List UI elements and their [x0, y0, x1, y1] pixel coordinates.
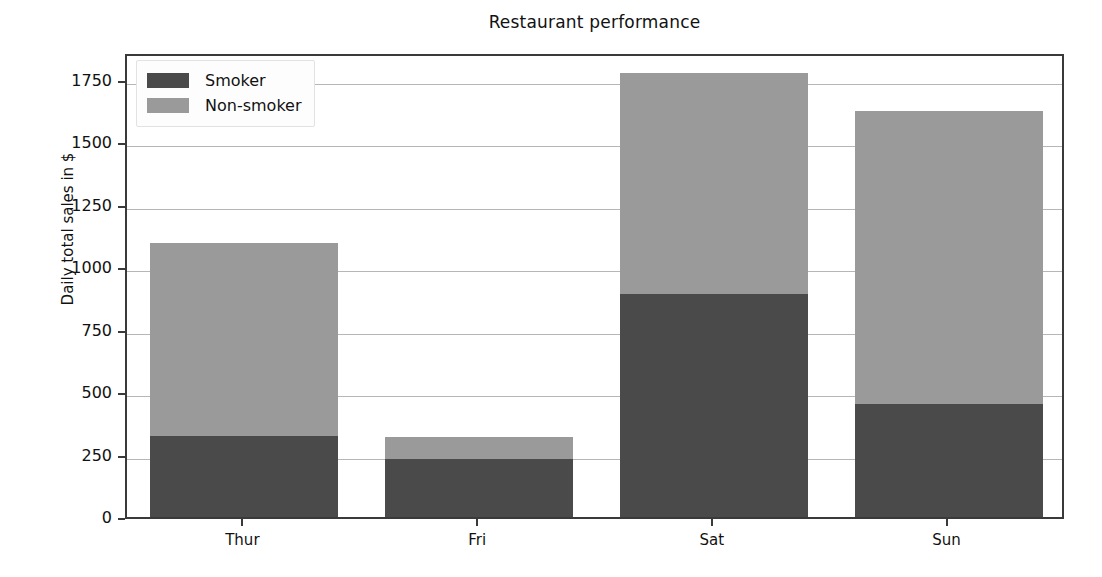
legend-label: Non-smoker: [205, 96, 302, 115]
bar-segment-smoker[interactable]: [385, 459, 573, 517]
y-tick-label: 500: [2, 383, 112, 402]
y-tick-mark: [118, 206, 125, 208]
x-tick-mark: [476, 519, 478, 526]
bar-segment-smoker[interactable]: [855, 404, 1043, 517]
bar-segment-non-smoker[interactable]: [150, 243, 338, 436]
y-tick-mark: [118, 143, 125, 145]
y-tick-label: 1000: [2, 258, 112, 277]
x-tick-label-sun: Sun: [877, 531, 1017, 549]
bar-stack-fri[interactable]: [385, 54, 573, 517]
bar-segment-non-smoker[interactable]: [620, 73, 808, 294]
bar-stack-sat[interactable]: [620, 54, 808, 517]
x-tick-label-sat: Sat: [642, 531, 782, 549]
bar-segment-non-smoker[interactable]: [385, 437, 573, 459]
page-title: Restaurant performance: [125, 12, 1064, 32]
y-tick-mark: [118, 81, 125, 83]
y-tick-label: 1750: [2, 71, 112, 90]
bar-stack-sun[interactable]: [855, 54, 1043, 517]
legend-item-smoker[interactable]: Smoker: [147, 68, 302, 93]
y-tick-mark: [118, 268, 125, 270]
legend-swatch-icon: [147, 98, 189, 113]
legend-item-non-smoker[interactable]: Non-smoker: [147, 93, 302, 118]
x-tick-mark: [946, 519, 948, 526]
bar-segment-smoker[interactable]: [620, 294, 808, 517]
y-tick-label: 1250: [2, 196, 112, 215]
bar-segment-smoker[interactable]: [150, 436, 338, 517]
legend-swatch-icon: [147, 73, 189, 88]
x-tick-label-thur: Thur: [172, 531, 312, 549]
y-tick-label: 1500: [2, 133, 112, 152]
bar-segment-non-smoker[interactable]: [855, 111, 1043, 404]
legend: SmokerNon-smoker: [136, 60, 315, 127]
chart-figure: Restaurant performance Daily total sales…: [0, 0, 1102, 577]
y-tick-label: 750: [2, 321, 112, 340]
y-tick-mark: [118, 456, 125, 458]
y-tick-mark: [118, 331, 125, 333]
x-tick-mark: [711, 519, 713, 526]
y-tick-label: 250: [2, 446, 112, 465]
y-tick-label: 0: [2, 508, 112, 527]
x-tick-mark: [241, 519, 243, 526]
x-tick-label-fri: Fri: [407, 531, 547, 549]
legend-label: Smoker: [205, 71, 266, 90]
y-tick-mark: [118, 393, 125, 395]
y-tick-mark: [118, 518, 125, 520]
